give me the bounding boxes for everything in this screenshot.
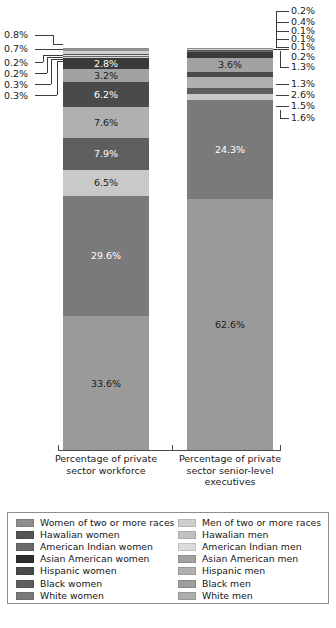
legend-women-label-6: White women: [40, 591, 104, 601]
legend-men-label-5: Black men: [202, 579, 251, 589]
leader-left-0b: [53, 44, 63, 45]
legend-men-label-4: Hispanic men: [202, 566, 265, 576]
workforce-segment-6: 2.8%: [63, 58, 149, 69]
callout-right-6: 1.3%: [291, 62, 315, 72]
legend-women-item-0[interactable]: Women of two or more races: [16, 517, 168, 529]
leader-right-10v: [280, 110, 281, 118]
leader-left-5v: [57, 61, 58, 95]
workforce-segment-7: 3.2%: [63, 69, 149, 82]
workforce-segment-6-label: 2.8%: [94, 59, 118, 69]
leader-left-1: [35, 49, 63, 50]
legend-men-item-6[interactable]: White men: [178, 590, 328, 602]
legend-women-swatch-1: [16, 531, 34, 539]
leader-right-6: [280, 67, 289, 68]
legend-women-label-3: Asian American women: [40, 554, 150, 564]
workforce-segment-12-label: 29.6%: [91, 251, 121, 261]
leader-left-3b: [47, 57, 63, 58]
workforce-segment-9: 7.6%: [63, 107, 149, 138]
legend-men-item-1[interactable]: Hawalian men: [178, 529, 328, 541]
callout-right-8: 2.6%: [291, 90, 315, 100]
chart-page: 0.8% 0.7% 0.2% 0.2% 0.3% 0.3% 0.8%0.7%0.…: [0, 0, 336, 628]
axis-caption-executives: Percentage of private sector senior-leve…: [172, 453, 288, 488]
executives-segment-12-label: 24.3%: [215, 145, 245, 155]
leader-left-4: [35, 84, 51, 85]
legend-men-swatch-5: [178, 580, 196, 588]
leader-right-1: [276, 22, 289, 23]
legend-men-swatch-4: [178, 567, 196, 575]
legend-men-item-0[interactable]: Men of two or more races: [178, 517, 328, 529]
legend-women-label-5: Black women: [40, 579, 102, 589]
legend-women-label-4: Hispanic women: [40, 566, 117, 576]
callout-right-9: 1.5%: [291, 101, 315, 111]
leader-right-trunk: [276, 11, 277, 47]
axis-tick-left: [58, 445, 59, 451]
legend-women-label-0: Women of two or more races: [40, 518, 174, 528]
executives-segment-9: 2.6%: [187, 77, 273, 88]
legend-men-swatch-6: [178, 592, 196, 600]
legend-women-item-2[interactable]: American Indian women: [16, 541, 168, 553]
leader-left-0v: [53, 35, 54, 44]
bar-executives-column: 0.2%0.4%0.1%0.1%0.1%0.2%1.3%3.6%1.3%2.6%…: [187, 0, 273, 452]
axis-caption-workforce: Percentage of private sector workforce: [48, 453, 164, 476]
legend-women-swatch-5: [16, 580, 34, 588]
chart-legend: Women of two or more racesHawalian women…: [7, 512, 329, 604]
workforce-segment-8-label: 6.2%: [94, 90, 118, 100]
workforce-segment-11: 6.5%: [63, 170, 149, 196]
legend-women-swatch-0: [16, 519, 34, 527]
legend-men-item-2[interactable]: American Indian men: [178, 541, 328, 553]
leader-right-4: [276, 47, 289, 48]
callout-left-1: 0.7%: [4, 44, 28, 54]
legend-women-swatch-2: [16, 543, 34, 551]
axis-baseline: [58, 450, 280, 451]
legend-column-men: Men of two or more racesHawalian menAmer…: [168, 517, 328, 603]
legend-women-item-6[interactable]: White women: [16, 590, 168, 602]
legend-men-label-1: Hawalian men: [202, 530, 268, 540]
legend-men-swatch-3: [178, 555, 196, 563]
leader-right-10: [280, 118, 289, 119]
bar-workforce: 0.8%0.7%0.2%0.2%0.3%0.3%2.8%3.2%6.2%7.6%…: [63, 48, 149, 452]
workforce-segment-10: 7.9%: [63, 138, 149, 170]
callout-left-3: 0.2%: [4, 69, 28, 79]
legend-men-swatch-2: [178, 543, 196, 551]
workforce-segment-9-label: 7.6%: [94, 118, 118, 128]
executives-segment-13: 62.6%: [187, 199, 273, 452]
executives-segment-7-label: 3.6%: [218, 60, 242, 70]
bar-executives: 0.2%0.4%0.1%0.1%0.1%0.2%1.3%3.6%1.3%2.6%…: [187, 48, 273, 452]
axis-tick-middle: [172, 445, 173, 451]
workforce-segment-13: 33.6%: [63, 316, 149, 452]
legend-women-item-4[interactable]: Hispanic women: [16, 565, 168, 577]
leader-right-7: [276, 84, 289, 85]
axis-tick-right: [280, 445, 281, 451]
legend-men-label-0: Men of two or more races: [202, 518, 321, 528]
legend-women-label-2: American Indian women: [40, 542, 153, 552]
callout-right-0: 0.2%: [291, 6, 315, 16]
callout-right-10: 1.6%: [291, 113, 315, 123]
callout-left-0: 0.8%: [4, 30, 28, 40]
workforce-segment-10-label: 7.9%: [94, 149, 118, 159]
executives-segment-12: 24.3%: [187, 100, 273, 198]
leader-right-6v: [280, 51, 281, 67]
legend-men-label-3: Asian American men: [202, 554, 298, 564]
leader-right-2: [276, 31, 289, 32]
legend-men-item-4[interactable]: Hispanic men: [178, 565, 328, 577]
legend-men-swatch-1: [178, 531, 196, 539]
legend-men-item-5[interactable]: Black men: [178, 577, 328, 589]
legend-men-swatch-0: [178, 519, 196, 527]
legend-women-item-1[interactable]: Hawalian women: [16, 529, 168, 541]
legend-women-item-3[interactable]: Asian American women: [16, 553, 168, 565]
leader-left-3: [35, 73, 47, 74]
legend-men-label-6: White men: [202, 591, 253, 601]
legend-men-item-3[interactable]: Asian American men: [178, 553, 328, 565]
leader-right-3: [276, 39, 289, 40]
leader-right-0: [276, 11, 289, 12]
leader-left-4v: [51, 59, 52, 84]
workforce-segment-12: 29.6%: [63, 196, 149, 316]
leader-right-9: [276, 106, 289, 107]
legend-women-item-5[interactable]: Black women: [16, 577, 168, 589]
bar-workforce-column: 0.8%0.7%0.2%0.2%0.3%0.3%2.8%3.2%6.2%7.6%…: [63, 0, 149, 452]
callout-left-2: 0.2%: [4, 58, 28, 68]
leader-left-2v: [43, 55, 44, 62]
leader-right-5: [273, 49, 289, 50]
leader-left-0: [35, 35, 53, 36]
callout-left-4: 0.3%: [4, 80, 28, 90]
